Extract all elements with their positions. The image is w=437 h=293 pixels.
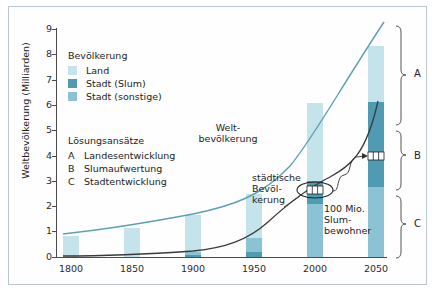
y-tick-0 bbox=[52, 257, 57, 258]
bar-2000-segment-city-slum bbox=[307, 181, 323, 204]
y-tick-label-5: 5 bbox=[36, 125, 52, 134]
bar-1900-segment-city-slum bbox=[185, 255, 201, 257]
y-tick-6 bbox=[52, 105, 57, 106]
solutions-block: Lösungsansätze A Landesentwicklung B Slu… bbox=[68, 135, 175, 188]
annotation-slum-dwellers-line3: bewohner bbox=[324, 225, 384, 236]
legend-swatch-land bbox=[68, 66, 77, 75]
bar-2000-segment-land bbox=[307, 103, 323, 181]
annotation-urban-population-line3: kerung bbox=[252, 194, 304, 205]
solutions-item-b: B Slumaufwertung bbox=[68, 162, 175, 175]
bracket-letter-b: B bbox=[414, 150, 426, 161]
bar-1800-segment-land bbox=[63, 236, 79, 257]
y-tick-7 bbox=[52, 80, 57, 81]
bar-1850 bbox=[124, 228, 140, 257]
y-tick-label-2: 2 bbox=[36, 201, 52, 210]
bracket-b bbox=[396, 131, 406, 190]
legend-item-slum: Stadt (Slum) bbox=[68, 77, 162, 90]
solutions-key-a: A bbox=[68, 150, 84, 161]
legend-item-city-other: Stadt (sonstige) bbox=[68, 90, 162, 103]
y-axis-line bbox=[56, 28, 57, 258]
plot-area: Weltbevölkerung (Milliarden) 0 1 2 3 4 5… bbox=[0, 0, 437, 293]
bar-2050-segment-land bbox=[368, 46, 384, 102]
annotation-urban-population: städtische Bevöl- kerung bbox=[252, 172, 304, 205]
bar-1850-segment-land bbox=[124, 228, 140, 257]
x-tick-label-1950: 1950 bbox=[234, 263, 274, 274]
legend-label-city-other: Stadt (sonstige) bbox=[86, 91, 162, 102]
annotation-urban-population-line1: städtische bbox=[252, 172, 304, 183]
y-tick-1 bbox=[52, 231, 57, 232]
x-tick-label-2000: 2000 bbox=[295, 263, 335, 274]
y-tick-label-6: 6 bbox=[36, 100, 52, 109]
annotation-world-population-line2: bevölkerung bbox=[196, 133, 260, 144]
annotation-slum-dwellers-line2: Slum- bbox=[324, 214, 384, 225]
legend-swatch-city-other bbox=[68, 92, 77, 101]
legend-item-land: Land bbox=[68, 64, 162, 77]
annotation-slum-dwellers-line1: 100 Mio. bbox=[324, 203, 384, 214]
bar-2050-segment-city-slum bbox=[368, 102, 384, 187]
solutions-key-b: B bbox=[68, 163, 84, 174]
bracket-c bbox=[396, 196, 406, 258]
bracket-letter-c: C bbox=[414, 218, 426, 229]
y-tick-label-8: 8 bbox=[36, 49, 52, 58]
solutions-title: Lösungsansätze bbox=[68, 135, 175, 146]
legend: Bevölkerung Land Stadt (Slum) Stadt (son… bbox=[68, 50, 162, 103]
bracket-a bbox=[396, 26, 406, 125]
y-tick-2 bbox=[52, 206, 57, 207]
x-tick-label-1900: 1900 bbox=[173, 263, 213, 274]
chart-figure: Weltbevölkerung (Milliarden) 0 1 2 3 4 5… bbox=[0, 0, 437, 293]
solutions-label-a: Landesentwicklung bbox=[84, 150, 175, 161]
bar-2000 bbox=[307, 103, 323, 257]
solutions-item-a: A Landesentwicklung bbox=[68, 149, 175, 162]
y-tick-5 bbox=[52, 130, 57, 131]
y-tick-label-0: 0 bbox=[36, 252, 52, 261]
y-tick-3 bbox=[52, 181, 57, 182]
bracket-letter-a: A bbox=[414, 68, 426, 79]
slum-marker-connector bbox=[333, 156, 366, 191]
y-axis-title: Weltbevölkerung (Milliarden) bbox=[20, 31, 31, 191]
y-tick-label-9: 9 bbox=[36, 24, 52, 33]
solutions-label-b: Slumaufwertung bbox=[84, 163, 162, 174]
legend-label-land: Land bbox=[86, 65, 109, 76]
y-tick-label-7: 7 bbox=[36, 75, 52, 84]
annotation-slum-dwellers: 100 Mio. Slum- bewohner bbox=[324, 203, 384, 236]
annotation-world-population-line1: Welt- bbox=[196, 122, 260, 133]
bar-1900 bbox=[185, 215, 201, 257]
legend-swatch-slum bbox=[68, 79, 77, 88]
bar-1950-segment-city-other bbox=[246, 238, 262, 252]
y-tick-label-4: 4 bbox=[36, 151, 52, 160]
bar-1950-segment-city-slum bbox=[246, 252, 262, 257]
bar-1900-segment-land bbox=[185, 215, 201, 252]
y-tick-8 bbox=[52, 54, 57, 55]
y-tick-label-3: 3 bbox=[36, 176, 52, 185]
bar-1800 bbox=[63, 236, 79, 257]
x-axis-line bbox=[56, 257, 387, 258]
y-tick-9 bbox=[52, 29, 57, 30]
legend-label-slum: Stadt (Slum) bbox=[86, 78, 146, 89]
y-tick-label-1: 1 bbox=[36, 226, 52, 235]
x-tick-label-1850: 1850 bbox=[112, 263, 152, 274]
y-tick-4 bbox=[52, 156, 57, 157]
solutions-key-c: C bbox=[68, 176, 84, 187]
legend-title: Bevölkerung bbox=[68, 50, 162, 61]
annotation-world-population: Welt- bevölkerung bbox=[196, 122, 260, 144]
x-tick-label-1800: 1800 bbox=[51, 263, 91, 274]
bar-2000-segment-city-other bbox=[307, 204, 323, 257]
solutions-item-c: C Stadtentwicklung bbox=[68, 175, 175, 188]
solutions-label-c: Stadtentwicklung bbox=[84, 176, 167, 187]
x-tick-label-2050: 2050 bbox=[356, 263, 396, 274]
annotation-urban-population-line2: Bevöl- bbox=[252, 183, 304, 194]
